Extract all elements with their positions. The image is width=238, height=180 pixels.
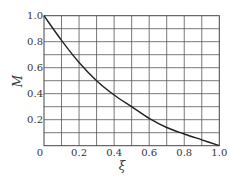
x-tick-label: 0.2 (71, 147, 87, 158)
y-tick-labels: 0.20.40.60.81.0 (27, 10, 43, 125)
x-tick-label: 0.8 (176, 147, 192, 158)
y-tick-label: 0.6 (27, 62, 43, 73)
grid (44, 16, 219, 146)
x-tick-label: 0 (37, 147, 43, 158)
y-tick-label: 0.4 (27, 88, 43, 99)
y-axis-label: M (11, 74, 25, 88)
chart: 00.20.40.60.81.0 0.20.40.60.81.0 ξ M (0, 0, 238, 180)
x-tick-labels: 00.20.40.60.81.0 (37, 147, 227, 158)
y-tick-label: 0.2 (27, 114, 43, 125)
y-tick-label: 1.0 (27, 10, 43, 21)
y-tick-label: 0.8 (27, 36, 43, 47)
x-tick-label: 1.0 (211, 147, 227, 158)
x-tick-label: 0.6 (141, 147, 157, 158)
x-tick-label: 0.4 (106, 147, 122, 158)
x-axis-label: ξ (119, 159, 127, 173)
